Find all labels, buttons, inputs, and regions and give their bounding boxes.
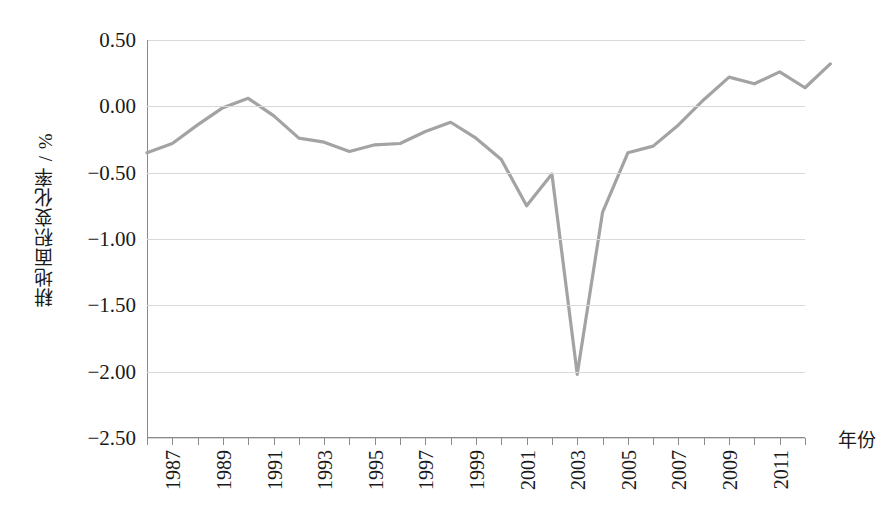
- x-tick-mark: [704, 438, 705, 445]
- x-tick-label: 2007: [668, 450, 691, 490]
- gridline: [147, 305, 805, 306]
- x-tick-mark: [172, 438, 173, 445]
- y-tick-label: −1.50: [36, 293, 136, 318]
- x-tick-mark: [400, 438, 401, 445]
- x-tick-mark: [147, 438, 148, 445]
- x-tick-label: 1999: [466, 450, 489, 490]
- y-axis-tick-labels: 0.500.00−0.50−1.00−1.50−2.00−2.50: [32, 0, 136, 529]
- x-tick-label: 1995: [365, 450, 388, 490]
- x-tick-label: 2001: [517, 450, 540, 490]
- x-tick-mark: [603, 438, 604, 445]
- y-tick-label: −2.50: [36, 426, 136, 451]
- x-tick-mark: [299, 438, 300, 445]
- y-tick-label: 0.50: [36, 28, 136, 53]
- x-tick-mark: [324, 438, 325, 445]
- x-tick-mark: [527, 438, 528, 445]
- y-tick-label: −2.00: [36, 359, 136, 384]
- x-tick-mark: [552, 438, 553, 445]
- x-tick-label: 2003: [567, 450, 590, 490]
- x-tick-label: 1991: [264, 450, 287, 490]
- gridline: [147, 239, 805, 240]
- x-tick-mark: [729, 438, 730, 445]
- gridline: [147, 372, 805, 373]
- x-tick-mark: [451, 438, 452, 445]
- x-tick-label: 2005: [618, 450, 641, 490]
- x-tick-mark: [678, 438, 679, 445]
- x-tick-mark: [501, 438, 502, 445]
- x-tick-label: 1997: [415, 450, 438, 490]
- x-tick-label: 1987: [162, 450, 185, 490]
- x-tick-mark: [653, 438, 654, 445]
- x-tick-mark: [223, 438, 224, 445]
- line-chart: 耕地面积变化率 / % 0.500.00−0.50−1.00−1.50−2.00…: [0, 0, 895, 529]
- x-tick-mark: [274, 438, 275, 445]
- x-tick-mark: [375, 438, 376, 445]
- x-tick-mark: [349, 438, 350, 445]
- gridline: [147, 106, 805, 107]
- x-tick-mark: [805, 438, 806, 445]
- x-tick-mark: [198, 438, 199, 445]
- x-tick-label: 2011: [770, 450, 793, 489]
- x-tick-mark: [628, 438, 629, 445]
- x-tick-mark: [476, 438, 477, 445]
- x-axis-title: 年份: [838, 425, 876, 452]
- y-tick-label: 0.00: [36, 94, 136, 119]
- y-tick-label: −1.00: [36, 227, 136, 252]
- plot-area: [147, 40, 805, 438]
- x-tick-mark: [425, 438, 426, 445]
- x-tick-label: 1989: [213, 450, 236, 490]
- y-tick-label: −0.50: [36, 160, 136, 185]
- x-tick-mark: [780, 438, 781, 445]
- x-tick-mark: [248, 438, 249, 445]
- x-tick-mark: [754, 438, 755, 445]
- x-tick-label: 2009: [719, 450, 742, 490]
- gridline: [147, 173, 805, 174]
- x-tick-mark: [577, 438, 578, 445]
- x-tick-label: 1993: [314, 450, 337, 490]
